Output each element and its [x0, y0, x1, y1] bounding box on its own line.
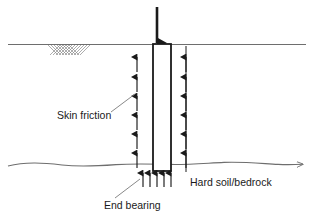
skin-friction-label: Skin friction: [57, 109, 111, 121]
hard-soil-bedrock-label: Hard soil/bedrock: [190, 176, 272, 188]
end-bearing-label: End bearing: [104, 199, 161, 211]
diagram-canvas: Skin friction End bearing Hard soil/bedr…: [0, 0, 313, 221]
pile-foundation-diagram: Skin friction End bearing Hard soil/bedr…: [0, 0, 313, 221]
end-bearing-leader-line: [115, 179, 140, 198]
skin-friction-leader-line: [111, 94, 135, 112]
pile-shaft: [153, 44, 171, 171]
end-bearing-arrow-group: [143, 173, 171, 187]
hatch-pattern-icon: [48, 45, 90, 55]
